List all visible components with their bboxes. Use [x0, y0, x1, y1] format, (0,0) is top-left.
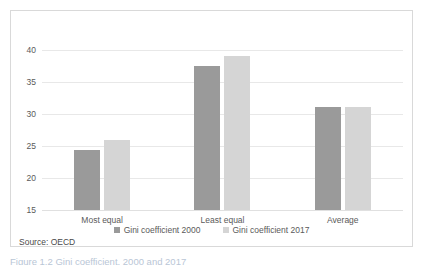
bar	[194, 66, 220, 210]
bars-layer	[42, 50, 403, 210]
bar	[224, 56, 250, 210]
source-note: Source: OECD	[19, 237, 75, 247]
y-axis-tick-label: 20	[27, 174, 36, 183]
figure-caption: Figure 1.2 Gini coefficient, 2000 and 20…	[10, 256, 414, 265]
legend-label: Gini coefficient 2017	[233, 225, 310, 235]
bar	[315, 107, 341, 210]
legend-swatch-icon	[223, 227, 229, 233]
gridline: 15	[42, 210, 403, 211]
chart-frame: 403530252015 Most equalLeast equalAverag…	[10, 10, 413, 247]
legend-item[interactable]: Gini coefficient 2000	[114, 225, 201, 235]
legend-swatch-icon	[114, 227, 120, 233]
y-axis-tick-label: 35	[27, 78, 36, 87]
bar	[345, 107, 371, 210]
y-axis-tick-label: 30	[27, 110, 36, 119]
bar	[104, 140, 130, 210]
y-axis-tick-label: 15	[27, 206, 36, 215]
bar-group	[162, 50, 282, 210]
plot-area: 403530252015	[42, 50, 403, 210]
legend-label: Gini coefficient 2000	[124, 225, 201, 235]
chart-legend: Gini coefficient 2000Gini coefficient 20…	[11, 225, 412, 235]
bar	[74, 150, 100, 210]
bar-group	[42, 50, 162, 210]
figure-container: 403530252015 Most equalLeast equalAverag…	[0, 0, 424, 265]
y-axis-tick-label: 40	[27, 46, 36, 55]
y-axis-tick-label: 25	[27, 142, 36, 151]
bar-group	[283, 50, 403, 210]
legend-item[interactable]: Gini coefficient 2017	[223, 225, 310, 235]
